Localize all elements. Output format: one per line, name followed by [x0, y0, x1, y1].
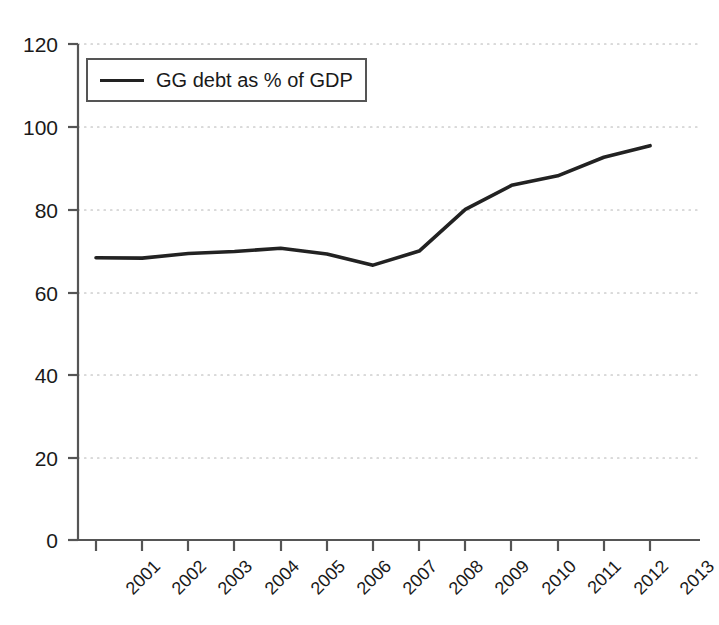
grid-lines: [78, 44, 700, 458]
x-axis-ticks: [96, 540, 650, 551]
legend-line-swatch: [100, 79, 144, 82]
y-tick-label-80: 80: [0, 199, 58, 223]
chart-legend: GG debt as % of GDP: [86, 58, 367, 102]
y-axis-ticks: [68, 44, 78, 540]
y-tick-label-40: 40: [0, 364, 58, 388]
legend-label: GG debt as % of GDP: [156, 69, 365, 92]
y-tick-label-100: 100: [0, 116, 58, 140]
data-series-line: [96, 146, 650, 265]
y-tick-label-120: 120: [0, 33, 58, 57]
y-tick-label-0: 0: [0, 529, 58, 553]
y-tick-label-20: 20: [0, 447, 58, 471]
chart-container: 120 100 80 60 40 20 0 200120022003200420…: [0, 0, 719, 625]
y-tick-label-60: 60: [0, 282, 58, 306]
